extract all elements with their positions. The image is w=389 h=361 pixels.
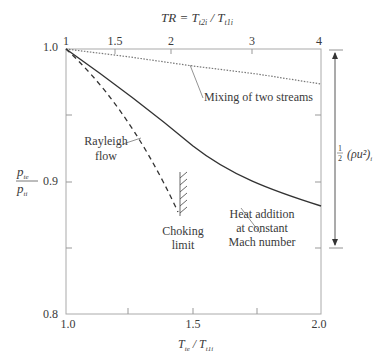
bottom-axis-ticks [128, 308, 257, 314]
dynamic-pressure-label: 1 2 (ρu²)i [337, 144, 372, 163]
label-heat-3: Mach number [229, 235, 296, 249]
left-tick-labels: 1.0 0.9 0.8 [43, 40, 58, 321]
left-axis-ticks [66, 115, 72, 248]
svg-text:1.0: 1.0 [43, 40, 58, 54]
series-heat-addition-constant-mach [66, 49, 321, 206]
label-heat-2: at constant [236, 221, 288, 235]
svg-text:pti: pti [16, 181, 27, 198]
top-tick-labels: 1 1.5 2 3 4 [63, 34, 322, 48]
series-mixing-two-streams [66, 49, 321, 84]
right-axis-ticks [315, 115, 321, 248]
label-heat-1: Heat addition [230, 207, 295, 221]
svg-text:(ρu²)i: (ρu²)i [347, 147, 372, 163]
y-axis-title: pte pti [16, 164, 38, 198]
svg-text:4: 4 [316, 34, 322, 48]
label-choking-1: Choking [162, 224, 203, 238]
svg-text:2: 2 [168, 34, 174, 48]
svg-text:3: 3 [249, 34, 255, 48]
label-rayleigh-1: Rayleigh [84, 134, 127, 148]
label-mixing: Mixing of two streams [204, 90, 313, 104]
annotations: Mixing of two streams Rayleigh flow Chok… [84, 90, 313, 252]
chart: 1 1.5 2 3 4 TR = Tt2i / Tt1i 1.0 1.5 2.0… [0, 0, 389, 361]
top-axis-ticks [115, 49, 252, 54]
svg-text:1.5: 1.5 [108, 34, 123, 48]
label-rayleigh-2: flow [95, 149, 117, 163]
svg-text:1.0: 1.0 [61, 317, 76, 331]
plot-frame [66, 49, 321, 314]
svg-text:1: 1 [63, 34, 69, 48]
svg-text:1: 1 [338, 144, 342, 153]
svg-text:2: 2 [338, 154, 342, 163]
svg-text:pte: pte [16, 164, 29, 181]
svg-text:2.0: 2.0 [312, 317, 327, 331]
bottom-tick-labels: 1.0 1.5 2.0 [61, 317, 327, 331]
label-choking-2: limit [172, 238, 195, 252]
choking-limit-hatch [180, 172, 187, 216]
svg-text:1.5: 1.5 [186, 317, 201, 331]
svg-text:0.9: 0.9 [43, 174, 58, 188]
svg-text:0.8: 0.8 [43, 307, 58, 321]
series-rayleigh-flow [66, 49, 178, 212]
x-axis-title: Tte / Tt1i [178, 337, 213, 353]
top-axis-title: TR = Tt2i / Tt1i [161, 10, 233, 27]
